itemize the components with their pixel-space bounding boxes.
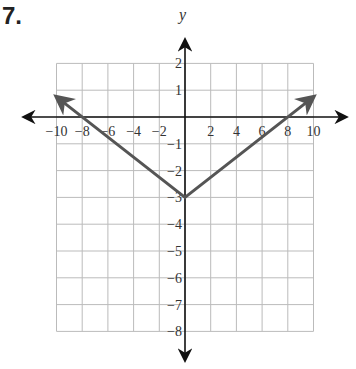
x-tick-label: 4 <box>233 124 240 139</box>
x-tick-label: −10 <box>46 124 68 139</box>
y-axis-label: y <box>177 6 187 24</box>
x-tick-label: 10 <box>307 124 321 139</box>
y-tick-label: −7 <box>167 298 182 313</box>
x-tick-label: 8 <box>284 124 291 139</box>
coordinate-plane-chart: y −10−8−6−4−224681021−1−2−3−4−5−6−7−8 <box>0 0 356 369</box>
y-tick-label: −8 <box>167 324 182 339</box>
y-tick-label: −2 <box>167 164 182 179</box>
y-tick-label: −1 <box>167 137 182 152</box>
y-tick-label: −5 <box>167 244 182 259</box>
axes: y <box>24 6 346 360</box>
y-tick-label: −4 <box>167 217 182 232</box>
x-tick-label: 2 <box>207 124 214 139</box>
x-tick-label: −4 <box>126 124 141 139</box>
y-tick-label: −6 <box>167 271 182 286</box>
y-tick-label: 2 <box>175 56 182 71</box>
x-tick-label: −2 <box>152 124 167 139</box>
x-tick-label: −8 <box>75 124 90 139</box>
y-tick-label: 1 <box>175 83 182 98</box>
